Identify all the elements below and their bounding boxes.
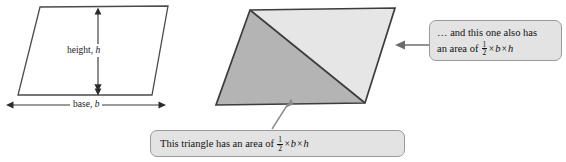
height-label-prefix: height,	[67, 45, 96, 55]
callout-right-fraction: 12	[482, 41, 488, 57]
base-arrowhead-right	[159, 102, 167, 109]
callout-right-var-b: b	[495, 43, 500, 54]
bottom-callout-pointer-line	[272, 104, 288, 129]
callout-right: … and this one also has an area of 12×b×…	[429, 20, 562, 61]
callout-right-line2-prefix: an area of	[437, 43, 481, 54]
callout-right-line1: … and this one also has	[437, 26, 554, 41]
base-label-prefix: base,	[73, 99, 95, 109]
callout-bottom: This triangle has an area of 12×b×h	[150, 130, 405, 157]
callout-right-var-h: h	[508, 43, 513, 54]
right-callout-pointer-arrowhead	[395, 41, 405, 50]
callout-right-times-2: ×	[501, 43, 508, 54]
callout-bottom-var-h: h	[304, 138, 309, 149]
callout-bottom-times-1: ×	[283, 138, 290, 149]
base-label-variable: b	[95, 99, 100, 109]
callout-bottom-times-2: ×	[296, 138, 303, 149]
callout-right-fraction-denominator: 2	[482, 49, 488, 57]
callout-bottom-prefix: This triangle has an area of	[160, 138, 277, 149]
base-arrowhead-left	[6, 102, 14, 109]
height-label: height, h	[64, 44, 103, 57]
parallelogram-area-figure: height, h base, b … and this one also ha…	[0, 0, 566, 162]
base-label: base, b	[70, 99, 102, 110]
callout-right-line2: an area of 12×b×h	[437, 41, 554, 57]
height-label-variable: h	[96, 45, 101, 55]
